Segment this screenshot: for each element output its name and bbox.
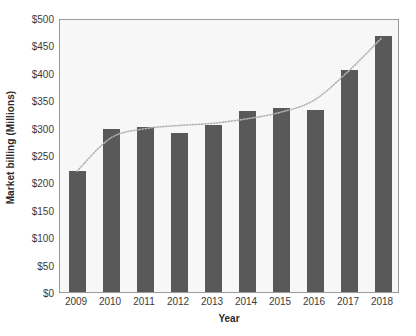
bar-2013 (205, 125, 222, 292)
bar-2017 (341, 70, 358, 292)
y-axis-tick-labels: $0$50$100$150$200$250$300$350$400$450$50… (22, 19, 58, 293)
y-axis-tick: $300 (32, 123, 54, 134)
x-axis-tick: 2010 (99, 296, 121, 307)
x-axis-tick: 2017 (337, 296, 359, 307)
bar-2016 (307, 110, 324, 292)
x-axis-tick: 2013 (201, 296, 223, 307)
bars-layer (60, 20, 398, 292)
bar-2009 (69, 171, 86, 292)
bar-chart-figure: Market billing (Millions) $0$50$100$150$… (0, 0, 416, 336)
bar-2018 (375, 36, 392, 292)
x-axis-tick: 2014 (235, 296, 257, 307)
y-axis-tick: $100 (32, 233, 54, 244)
y-axis-tick: $400 (32, 68, 54, 79)
x-axis-title: Year (59, 313, 399, 324)
y-axis-tick: $500 (32, 14, 54, 25)
x-axis-tick: 2015 (269, 296, 291, 307)
y-axis-tick: $150 (32, 205, 54, 216)
bar-2011 (137, 127, 154, 292)
y-axis-tick: $50 (37, 260, 54, 271)
y-axis-title-label: Market billing (Millions) (6, 90, 17, 204)
x-axis-tick-labels: 2009201020112012201320142015201620172018 (59, 296, 399, 312)
x-axis-tick: 2011 (133, 296, 155, 307)
x-axis-tick: 2018 (371, 296, 393, 307)
x-axis-tick: 2009 (65, 296, 87, 307)
x-axis-tick: 2016 (303, 296, 325, 307)
y-axis-tick: $0 (43, 288, 54, 299)
x-axis-tick: 2012 (167, 296, 189, 307)
y-axis-tick: $350 (32, 96, 54, 107)
plot-area (59, 19, 399, 293)
y-axis-title: Market billing (Millions) (0, 0, 22, 294)
y-axis-tick: $200 (32, 178, 54, 189)
bar-2012 (171, 133, 188, 292)
y-axis-tick: $250 (32, 151, 54, 162)
bar-2015 (273, 108, 290, 292)
bar-2010 (103, 129, 120, 292)
y-axis-tick: $450 (32, 41, 54, 52)
bar-2014 (239, 111, 256, 292)
